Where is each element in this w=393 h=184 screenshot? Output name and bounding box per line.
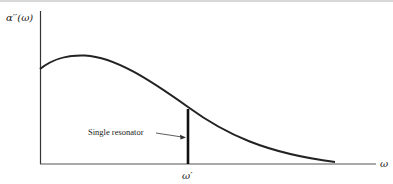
annotation-label: Single resonator	[88, 127, 144, 137]
y-axis-label: α′′(ω)	[6, 12, 33, 23]
spectral-density-diagram: α′′(ω) Single resonator ω′ ω	[0, 0, 393, 184]
top-rule	[0, 0, 393, 2]
arrow-head-icon	[180, 135, 186, 140]
diagram-canvas: α′′(ω) Single resonator ω′ ω	[0, 0, 393, 184]
x-axis-label: ω	[380, 158, 388, 169]
tick-label-omega-prime: ω′	[182, 170, 193, 181]
annotation-arrow	[156, 133, 182, 137]
